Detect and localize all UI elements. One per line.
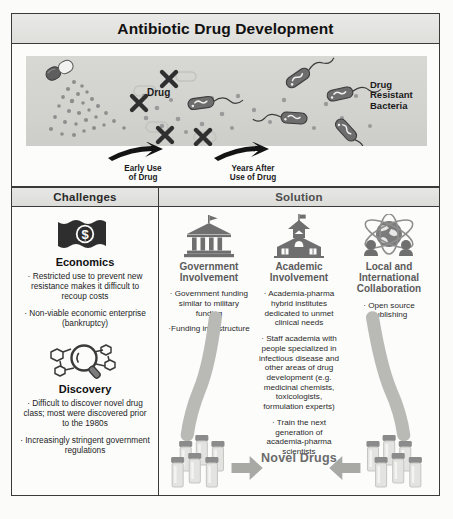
bacterium-icon: [284, 56, 335, 90]
solution-column: Solution: [159, 188, 439, 495]
page-title: Antibiotic Drug Development: [117, 20, 333, 38]
solution-collaboration: Local and International Collaboration · …: [345, 214, 433, 320]
novel-drugs-strip: Novel Drugs: [159, 427, 439, 493]
years-after-line-2: Use of Drug: [212, 173, 294, 182]
bacterium-icon: [253, 110, 308, 125]
bullet: · Academia-pharma hybrid institutes dedi…: [257, 289, 341, 328]
early-use-line-2: of Drug: [108, 173, 178, 182]
solution-government: Government Involvement · Government fund…: [165, 214, 253, 334]
solution-title: Academic Involvement: [257, 261, 341, 283]
challenges-body: $ Economics · Restricted use to prevent …: [12, 207, 158, 495]
novel-drugs-label: Novel Drugs: [159, 451, 439, 465]
bullet: · Non-viable economic enterprise (bankru…: [18, 308, 152, 328]
title-line: Involvement: [167, 272, 251, 283]
globe-atom-icon: [347, 214, 431, 258]
bacterium-icon: [333, 117, 369, 146]
hero-stage: [26, 56, 427, 146]
drug-particles: [49, 80, 126, 137]
infographic-page: Antibiotic Drug Development: [0, 0, 453, 519]
years-after-line-1: Years After: [212, 164, 294, 173]
drug-resistant-bacteria-label: Drug Resistant Bacteria: [370, 80, 413, 111]
title-line: Local and: [347, 261, 431, 272]
government-building-icon: [167, 214, 251, 258]
bacterium-icon: [187, 92, 243, 111]
hero-diagram: Drug Drug Resistant Bacteria Early Use o…: [12, 44, 439, 186]
challenge-discovery: Discovery · Difficult to discover novel …: [18, 341, 152, 456]
solution-title: Government Involvement: [167, 261, 251, 283]
solution-header-label: Solution: [275, 191, 323, 203]
school-building-icon: [257, 214, 341, 258]
bullet: · Difficult to discover novel drug class…: [18, 398, 152, 428]
challenge-economics: $ Economics · Restricted use to prevent …: [18, 214, 152, 329]
content-columns: Challenges $ Economics: [12, 188, 439, 495]
dr-line-3: Bacteria: [370, 101, 413, 111]
challenges-column: Challenges $ Economics: [12, 188, 159, 495]
dr-line-2: Resistant: [370, 90, 413, 100]
challenges-header-label: Challenges: [53, 191, 116, 203]
bullet: · Government funding similar to military…: [167, 289, 251, 318]
title-line: Involvement: [257, 272, 341, 283]
solution-title: Local and International Collaboration: [347, 261, 431, 295]
banner: Antibiotic Drug Development: [12, 14, 439, 44]
hero-illustration: [26, 56, 427, 146]
challenge-bullets: · Restricted use to prevent new resistan…: [18, 271, 152, 329]
years-after-label: Years After Use of Drug: [212, 164, 294, 183]
capsule-icon: [44, 58, 75, 82]
solution-body: Government Involvement · Government fund…: [159, 207, 439, 495]
title-line: International: [347, 272, 431, 283]
bullet: · Open source publishing: [347, 301, 431, 320]
challenge-title: Discovery: [18, 383, 152, 395]
timeline-arrows: [102, 142, 302, 164]
bullet: ·Funding infrastructure: [167, 324, 251, 334]
drug-label: Drug: [147, 88, 170, 99]
early-use-line-1: Early Use: [108, 164, 178, 173]
dollar-bill-icon: $: [18, 214, 152, 254]
magnifier-molecule-icon: [18, 341, 152, 381]
solution-academic: Academic Involvement · Academia-pharma h…: [255, 214, 343, 457]
bullet: · Restricted use to prevent new resistan…: [18, 271, 152, 301]
title-line: Collaboration: [347, 283, 431, 294]
title-line: Government: [167, 261, 251, 272]
challenge-title: Economics: [18, 256, 152, 268]
early-use-label: Early Use of Drug: [108, 164, 178, 183]
title-line: Academic: [257, 261, 341, 272]
solution-grid: Government Involvement · Government fund…: [165, 214, 433, 457]
infographic-frame: Antibiotic Drug Development: [11, 13, 440, 496]
solution-header: Solution: [159, 188, 439, 207]
bullet: · Staff academia with people specialized…: [257, 334, 341, 412]
bullet: · Increasingly stringent government regu…: [18, 435, 152, 455]
svg-text:$: $: [81, 227, 89, 242]
challenges-header: Challenges: [12, 188, 158, 207]
challenge-bullets: · Difficult to discover novel drug class…: [18, 398, 152, 456]
